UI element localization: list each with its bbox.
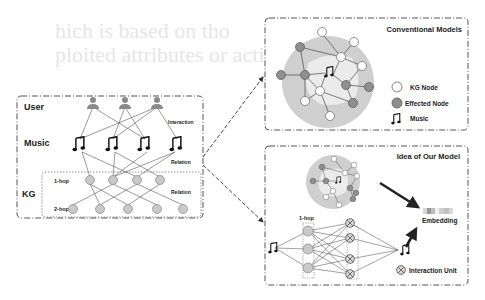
kg-1-hop-nodes bbox=[86, 176, 165, 185]
left-panel: User Music KG 1-hop 2-hop Interaction Re… bbox=[17, 96, 203, 218]
interaction-unit-icon bbox=[346, 270, 355, 279]
music-note-icon bbox=[72, 137, 85, 152]
legend: KG Node Effected Node Music bbox=[391, 82, 449, 124]
relation-edges-upper bbox=[82, 152, 175, 177]
legend-music: Music bbox=[410, 115, 429, 122]
interaction-unit-icon bbox=[346, 219, 355, 228]
music-note-icon bbox=[137, 137, 150, 152]
music-note-icon bbox=[268, 243, 277, 254]
label-relation-lower: Relation bbox=[171, 189, 191, 195]
arrow-graph-to-embedding bbox=[380, 183, 418, 207]
connector-arrows bbox=[203, 77, 263, 222]
user-icon bbox=[151, 97, 163, 109]
conventional-models-title: Conventional Models bbox=[387, 25, 462, 34]
label-relation-upper: Relation bbox=[171, 159, 191, 165]
conventional-models-panel: Conventional Models bbox=[265, 18, 468, 130]
diagram: User Music KG 1-hop 2-hop Interaction Re… bbox=[0, 0, 485, 300]
interaction-edges bbox=[80, 107, 177, 139]
user-icon bbox=[119, 97, 131, 109]
music-note-icon bbox=[400, 245, 409, 256]
interaction-unit-icon bbox=[397, 266, 406, 275]
label-music: Music bbox=[24, 138, 50, 148]
music-note-icon bbox=[391, 114, 400, 125]
kg-2-hop-nodes bbox=[69, 205, 188, 214]
music-note-icon bbox=[169, 137, 182, 152]
our-model-panel: Idea of Our Model bbox=[265, 146, 468, 285]
label-1-hop: 1-hop bbox=[54, 178, 70, 184]
label-interaction: Interaction bbox=[168, 119, 194, 125]
white-circle-icon bbox=[392, 82, 402, 92]
music-note-icon bbox=[105, 137, 118, 152]
gray-circle-icon bbox=[392, 98, 402, 108]
legend-kg-node: KG Node bbox=[410, 84, 438, 91]
interaction-unit-icon bbox=[346, 255, 355, 264]
hop-nodes bbox=[303, 226, 313, 273]
label-kg: KG bbox=[22, 189, 36, 199]
relation-edges-lower bbox=[73, 184, 183, 205]
interaction-unit-icon bbox=[346, 234, 355, 243]
label-2-hop: 2-hop bbox=[54, 206, 70, 212]
legend-effected-node: Effected Node bbox=[405, 100, 449, 107]
interaction-unit-label: Interaction Unit bbox=[409, 267, 458, 274]
embedding-vector bbox=[423, 208, 453, 214]
network-edges bbox=[275, 223, 398, 274]
label-user: User bbox=[24, 102, 45, 112]
embedding-label: Embedding bbox=[422, 217, 457, 225]
our-model-title: Idea of Our Model bbox=[397, 152, 460, 161]
user-icon bbox=[87, 97, 99, 109]
hop-label: 1-hop bbox=[299, 215, 315, 221]
